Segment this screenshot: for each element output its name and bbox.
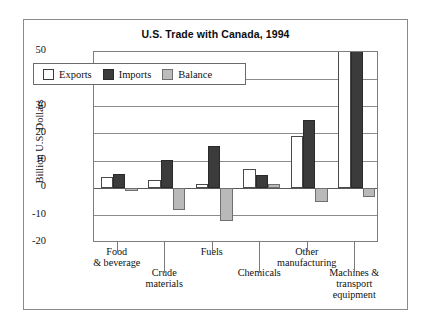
bar-balance-1 bbox=[173, 188, 185, 210]
bar-imports-2 bbox=[208, 146, 220, 188]
chart-title: U.S. Trade with Canada, 1994 bbox=[24, 28, 407, 40]
gridline-20 bbox=[94, 133, 377, 134]
legend-label-exports: Exports bbox=[59, 69, 92, 80]
y-axis-title: Billion U.S. Dollars bbox=[34, 67, 45, 217]
legend-item-balance: Balance bbox=[162, 69, 212, 80]
imports-swatch-icon bbox=[103, 69, 114, 80]
legend-item-exports: Exports bbox=[43, 69, 92, 80]
legend-item-imports: Imports bbox=[103, 69, 152, 80]
bar-exports-1 bbox=[148, 180, 160, 188]
bar-exports-0 bbox=[101, 177, 113, 189]
gridline--10 bbox=[94, 215, 377, 216]
y-tick-label-0: 0 bbox=[6, 181, 46, 191]
x-tickmark-1 bbox=[164, 242, 165, 273]
category-label-line: transport bbox=[294, 278, 414, 289]
bar-balance-2 bbox=[220, 188, 232, 221]
x-tickmark-0 bbox=[117, 242, 118, 252]
y-tick-label-10: 10 bbox=[6, 154, 46, 164]
bar-exports-4 bbox=[291, 136, 303, 189]
y-tick-label-20: 20 bbox=[6, 127, 46, 137]
bar-imports-3 bbox=[256, 175, 268, 189]
y-tick-label-30: 30 bbox=[6, 100, 46, 110]
bar-imports-5 bbox=[351, 51, 363, 188]
y-tick-label--20: -20 bbox=[6, 236, 46, 246]
figure-frame: U.S. Trade with Canada, 1994 Billion U.S… bbox=[23, 19, 408, 310]
x-tickmark-4 bbox=[307, 242, 308, 252]
x-tickmark-3 bbox=[259, 242, 260, 273]
bar-balance-3 bbox=[268, 184, 280, 188]
gridline-10 bbox=[94, 161, 377, 162]
category-label-line: materials bbox=[104, 278, 224, 289]
bar-exports-5 bbox=[338, 51, 350, 188]
bar-exports-3 bbox=[243, 169, 255, 188]
bar-imports-1 bbox=[161, 160, 173, 189]
y-tick-label--10: -10 bbox=[6, 209, 46, 219]
gridline-30 bbox=[94, 106, 377, 107]
exports-swatch-icon bbox=[43, 69, 54, 80]
legend-label-imports: Imports bbox=[119, 69, 152, 80]
category-label-line: equipment bbox=[294, 289, 414, 300]
legend-label-balance: Balance bbox=[178, 69, 212, 80]
bar-balance-5 bbox=[363, 188, 375, 196]
bar-imports-4 bbox=[303, 120, 315, 188]
balance-swatch-icon bbox=[162, 69, 173, 80]
bar-balance-0 bbox=[125, 188, 137, 191]
x-tickmark-2 bbox=[212, 242, 213, 252]
bar-exports-2 bbox=[196, 184, 208, 188]
bar-balance-4 bbox=[315, 188, 327, 202]
x-tickmark-5 bbox=[354, 242, 355, 273]
legend: Exports Imports Balance bbox=[33, 63, 246, 85]
bar-imports-0 bbox=[113, 174, 125, 188]
y-tick-label-50: 50 bbox=[6, 45, 46, 55]
